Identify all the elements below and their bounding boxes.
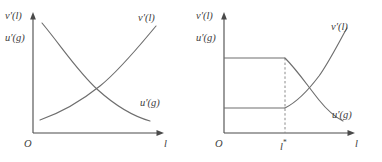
right-threshold-label: l*: [280, 139, 287, 152]
right-x-axis-arrowhead: [348, 130, 356, 136]
left-curve-u-prime-g: [42, 23, 150, 121]
right-origin-label: O: [215, 139, 223, 150]
left-x-axis-arrowhead: [157, 130, 165, 136]
chart-panel-right: v′(l) u′(g) v′(l) u′(g) O l* l: [191, 0, 382, 162]
left-y-axis-arrowhead: [30, 12, 36, 20]
right-curve-label-u: u′(g): [332, 110, 352, 121]
left-y-axis-label-u: u′(g): [5, 33, 25, 44]
chart-panel-left: v′(l) u′(g) v′(l) u′(g) O l: [0, 0, 191, 162]
left-curve-v-prime-l: [40, 26, 156, 120]
figure-root: v′(l) u′(g) v′(l) u′(g) O l v′(l): [0, 0, 382, 162]
left-origin-label: O: [24, 139, 32, 150]
right-curve-label-v: v′(l): [331, 22, 348, 33]
right-y-axis-label-u: u′(g): [196, 33, 216, 44]
right-y-axis-label-v: v′(l): [196, 11, 213, 22]
left-curve-label-u: u′(g): [140, 98, 160, 109]
right-x-axis-label: l: [355, 139, 358, 150]
right-y-axis-arrowhead: [221, 12, 227, 20]
left-curve-label-v: v′(l): [138, 13, 155, 24]
left-x-axis-label: l: [164, 139, 167, 150]
right-threshold-label-superscript: *: [283, 138, 287, 147]
left-y-axis-label-v: v′(l): [5, 11, 22, 22]
